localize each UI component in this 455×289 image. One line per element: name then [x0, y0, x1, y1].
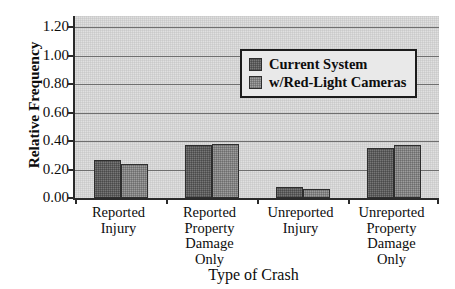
category-label-line: Unreported: [337, 205, 447, 221]
x-axis-tick: [257, 198, 259, 204]
x-axis-tick: [348, 198, 350, 204]
x-axis-category-label: UnreportedPropertyDamageOnly: [337, 205, 447, 267]
legend: Current System w/Red-Light Cameras: [240, 49, 417, 98]
bar: [121, 164, 148, 198]
y-axis-tick-label: 0.80: [9, 76, 69, 91]
bar: [94, 160, 121, 198]
y-axis-tick-label: 0.40: [9, 133, 69, 148]
x-axis-tick: [166, 198, 168, 204]
x-axis-tick: [437, 198, 439, 204]
y-axis-tick-label: 0.60: [9, 105, 69, 120]
gridline: [75, 141, 439, 142]
x-axis-title: Type of Crash: [0, 266, 455, 283]
bar: [394, 145, 421, 198]
y-axis-tick-label: 1.00: [9, 48, 69, 63]
bar-chart-figure: Relative Frequency 0.000.200.400.600.801…: [0, 0, 455, 289]
category-label-line: Damage: [337, 236, 447, 252]
legend-item-current-system: Current System: [249, 55, 406, 73]
y-axis-tick: [68, 55, 75, 57]
category-label-line: Damage: [155, 236, 265, 252]
y-axis-tick-label: 0.20: [9, 162, 69, 177]
y-axis-tick: [68, 83, 75, 85]
y-axis-tick: [68, 112, 75, 114]
gridline: [75, 27, 439, 28]
legend-swatch-red-light-cameras: [249, 76, 262, 89]
bar: [303, 189, 330, 198]
category-label-line: Only: [337, 252, 447, 268]
y-axis-tick-label: 1.20: [9, 19, 69, 34]
legend-label-red-light-cameras: w/Red-Light Cameras: [269, 74, 406, 90]
y-axis-tick: [68, 169, 75, 171]
bar: [367, 148, 394, 198]
bar: [212, 144, 239, 198]
y-axis-tick: [68, 140, 75, 142]
legend-swatch-current-system: [249, 58, 262, 71]
x-axis-tick: [75, 198, 77, 204]
y-axis-tick: [68, 26, 75, 28]
bar: [276, 187, 303, 198]
y-axis-tick-label: 0.00: [9, 190, 69, 205]
category-label-line: Property: [337, 221, 447, 237]
plot-area: Current System w/Red-Light Cameras: [73, 16, 439, 200]
category-label-line: Only: [155, 252, 265, 268]
legend-item-red-light-cameras: w/Red-Light Cameras: [249, 73, 406, 91]
y-axis-tick: [68, 197, 75, 199]
gridline: [75, 113, 439, 114]
legend-label-current-system: Current System: [269, 56, 367, 72]
bar: [185, 145, 212, 198]
